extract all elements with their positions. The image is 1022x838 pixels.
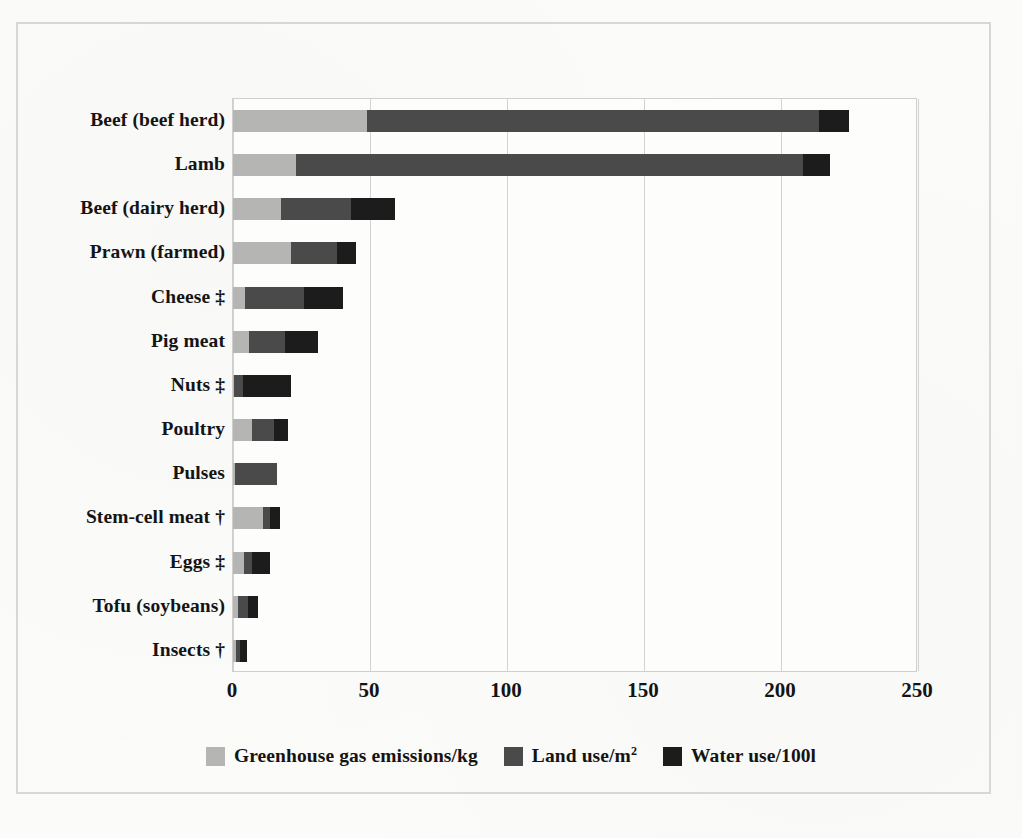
- gridline-250: [918, 99, 919, 671]
- bar-segment-land: [249, 331, 285, 353]
- bar-row: [233, 231, 916, 275]
- category-label: Beef (dairy herd): [7, 197, 232, 219]
- figure-page: Beef (beef herd)LambBeef (dairy herd)Pra…: [0, 0, 1022, 838]
- stacked-bar: [233, 463, 277, 485]
- bar-segment-ghg: [233, 154, 296, 176]
- bar-segment-land: [234, 375, 242, 397]
- bar-segment-land: [281, 198, 351, 220]
- bar-row: [233, 276, 916, 320]
- bar-segment-ghg: [233, 552, 244, 574]
- bar-segment-ghg: [233, 507, 263, 529]
- bar-segment-water: [240, 640, 247, 662]
- category-label: Eggs ‡: [7, 551, 232, 573]
- bar-segment-land: [235, 463, 277, 485]
- bar-row: [233, 143, 916, 187]
- category-label: Tofu (soybeans): [7, 595, 232, 617]
- bar-segment-land: [238, 596, 248, 618]
- plot-area: [232, 98, 917, 672]
- legend-item-land[interactable]: Land use/m2: [504, 745, 637, 767]
- category-label: Nuts ‡: [7, 374, 232, 396]
- bar-segment-ghg: [233, 242, 291, 264]
- legend-swatch-icon: [206, 747, 225, 766]
- bar-segment-ghg: [233, 110, 367, 132]
- stacked-bar: [233, 640, 247, 662]
- bar-segment-water: [274, 419, 288, 441]
- bar-segment-land: [244, 552, 252, 574]
- stacked-bar: [233, 331, 318, 353]
- legend-swatch-icon: [663, 747, 682, 766]
- legend-item-ghg[interactable]: Greenhouse gas emissions/kg: [206, 745, 478, 767]
- stacked-bar: [233, 552, 270, 574]
- bar-segment-water: [304, 287, 342, 309]
- category-label: Pig meat: [7, 330, 232, 352]
- bar-row: [233, 452, 916, 496]
- stacked-bar: [233, 242, 356, 264]
- stacked-bar: [233, 419, 288, 441]
- bar-segment-land: [291, 242, 338, 264]
- category-label: Pulses: [7, 462, 232, 484]
- category-label: Cheese ‡: [7, 286, 232, 308]
- legend-label: Greenhouse gas emissions/kg: [234, 745, 478, 767]
- x-tick-label-250: 250: [901, 678, 933, 703]
- x-tick-label-50: 50: [359, 678, 380, 703]
- bar-segment-water: [252, 552, 270, 574]
- bar-segment-land: [367, 110, 819, 132]
- bar-segment-water: [351, 198, 395, 220]
- bar-segment-land: [263, 507, 270, 529]
- legend-swatch-icon: [504, 747, 523, 766]
- bar-segment-water: [270, 507, 280, 529]
- category-label: Poultry: [7, 418, 232, 440]
- category-label: Lamb: [7, 153, 232, 175]
- bar-row: [233, 629, 916, 673]
- x-axis-tick-labels: 050100150200250: [232, 678, 917, 712]
- bar-segment-ghg: [233, 331, 249, 353]
- bar-segment-land: [245, 287, 304, 309]
- bar-segment-water: [803, 154, 830, 176]
- stacked-bar: [233, 154, 830, 176]
- stacked-bar: [233, 507, 280, 529]
- bar-segment-water: [337, 242, 356, 264]
- legend-label: Water use/100l: [691, 745, 816, 767]
- category-axis-labels: Beef (beef herd)LambBeef (dairy herd)Pra…: [0, 98, 232, 672]
- bar-segment-water: [243, 375, 291, 397]
- stacked-bar: [233, 287, 343, 309]
- stacked-bar: [233, 375, 291, 397]
- bar-row: [233, 541, 916, 585]
- stacked-bar-chart: Beef (beef herd)LambBeef (dairy herd)Pra…: [0, 0, 1022, 838]
- bar-row: [233, 99, 916, 143]
- x-tick-label-0: 0: [227, 678, 238, 703]
- bar-segment-ghg: [233, 419, 252, 441]
- stacked-bar: [233, 198, 395, 220]
- bar-segment-water: [248, 596, 258, 618]
- bar-segment-water: [819, 110, 849, 132]
- x-tick-label-200: 200: [764, 678, 796, 703]
- stacked-bar: [233, 110, 849, 132]
- bar-segment-water: [285, 331, 318, 353]
- chart-legend: Greenhouse gas emissions/kgLand use/m2Wa…: [0, 745, 1022, 767]
- x-tick-label-100: 100: [490, 678, 522, 703]
- bar-series-group: [233, 99, 916, 671]
- bar-row: [233, 496, 916, 540]
- x-tick-label-150: 150: [627, 678, 659, 703]
- bar-row: [233, 320, 916, 364]
- bar-segment-land: [252, 419, 274, 441]
- bar-row: [233, 187, 916, 231]
- legend-item-water[interactable]: Water use/100l: [663, 745, 816, 767]
- bar-row: [233, 364, 916, 408]
- stacked-bar: [233, 596, 258, 618]
- category-label: Insects †: [7, 639, 232, 661]
- bar-row: [233, 585, 916, 629]
- bar-segment-ghg: [233, 198, 281, 220]
- category-label: Stem-cell meat †: [7, 506, 232, 528]
- category-label: Prawn (farmed): [7, 241, 232, 263]
- legend-label: Land use/m2: [532, 745, 637, 767]
- bar-row: [233, 408, 916, 452]
- bar-segment-land: [296, 154, 803, 176]
- category-label: Beef (beef herd): [7, 109, 232, 131]
- bar-segment-ghg: [233, 287, 245, 309]
